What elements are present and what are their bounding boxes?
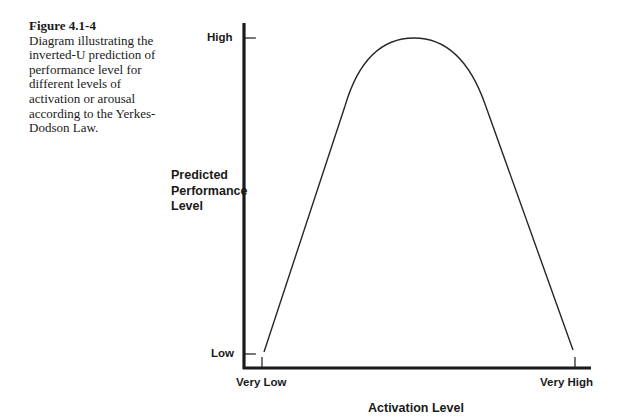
inverted-u-chart xyxy=(0,0,623,420)
performance-curve xyxy=(264,38,573,352)
